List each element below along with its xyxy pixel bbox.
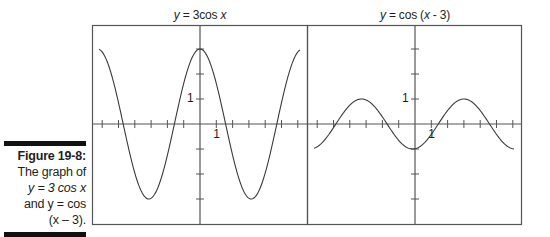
y-tick-label-right: 1 (402, 91, 409, 105)
graph-panels (0, 0, 550, 237)
x-tick-label-left: 1 (213, 127, 220, 141)
x-tick-label-right: 1 (428, 127, 435, 141)
y-tick-label-left: 1 (187, 91, 194, 105)
